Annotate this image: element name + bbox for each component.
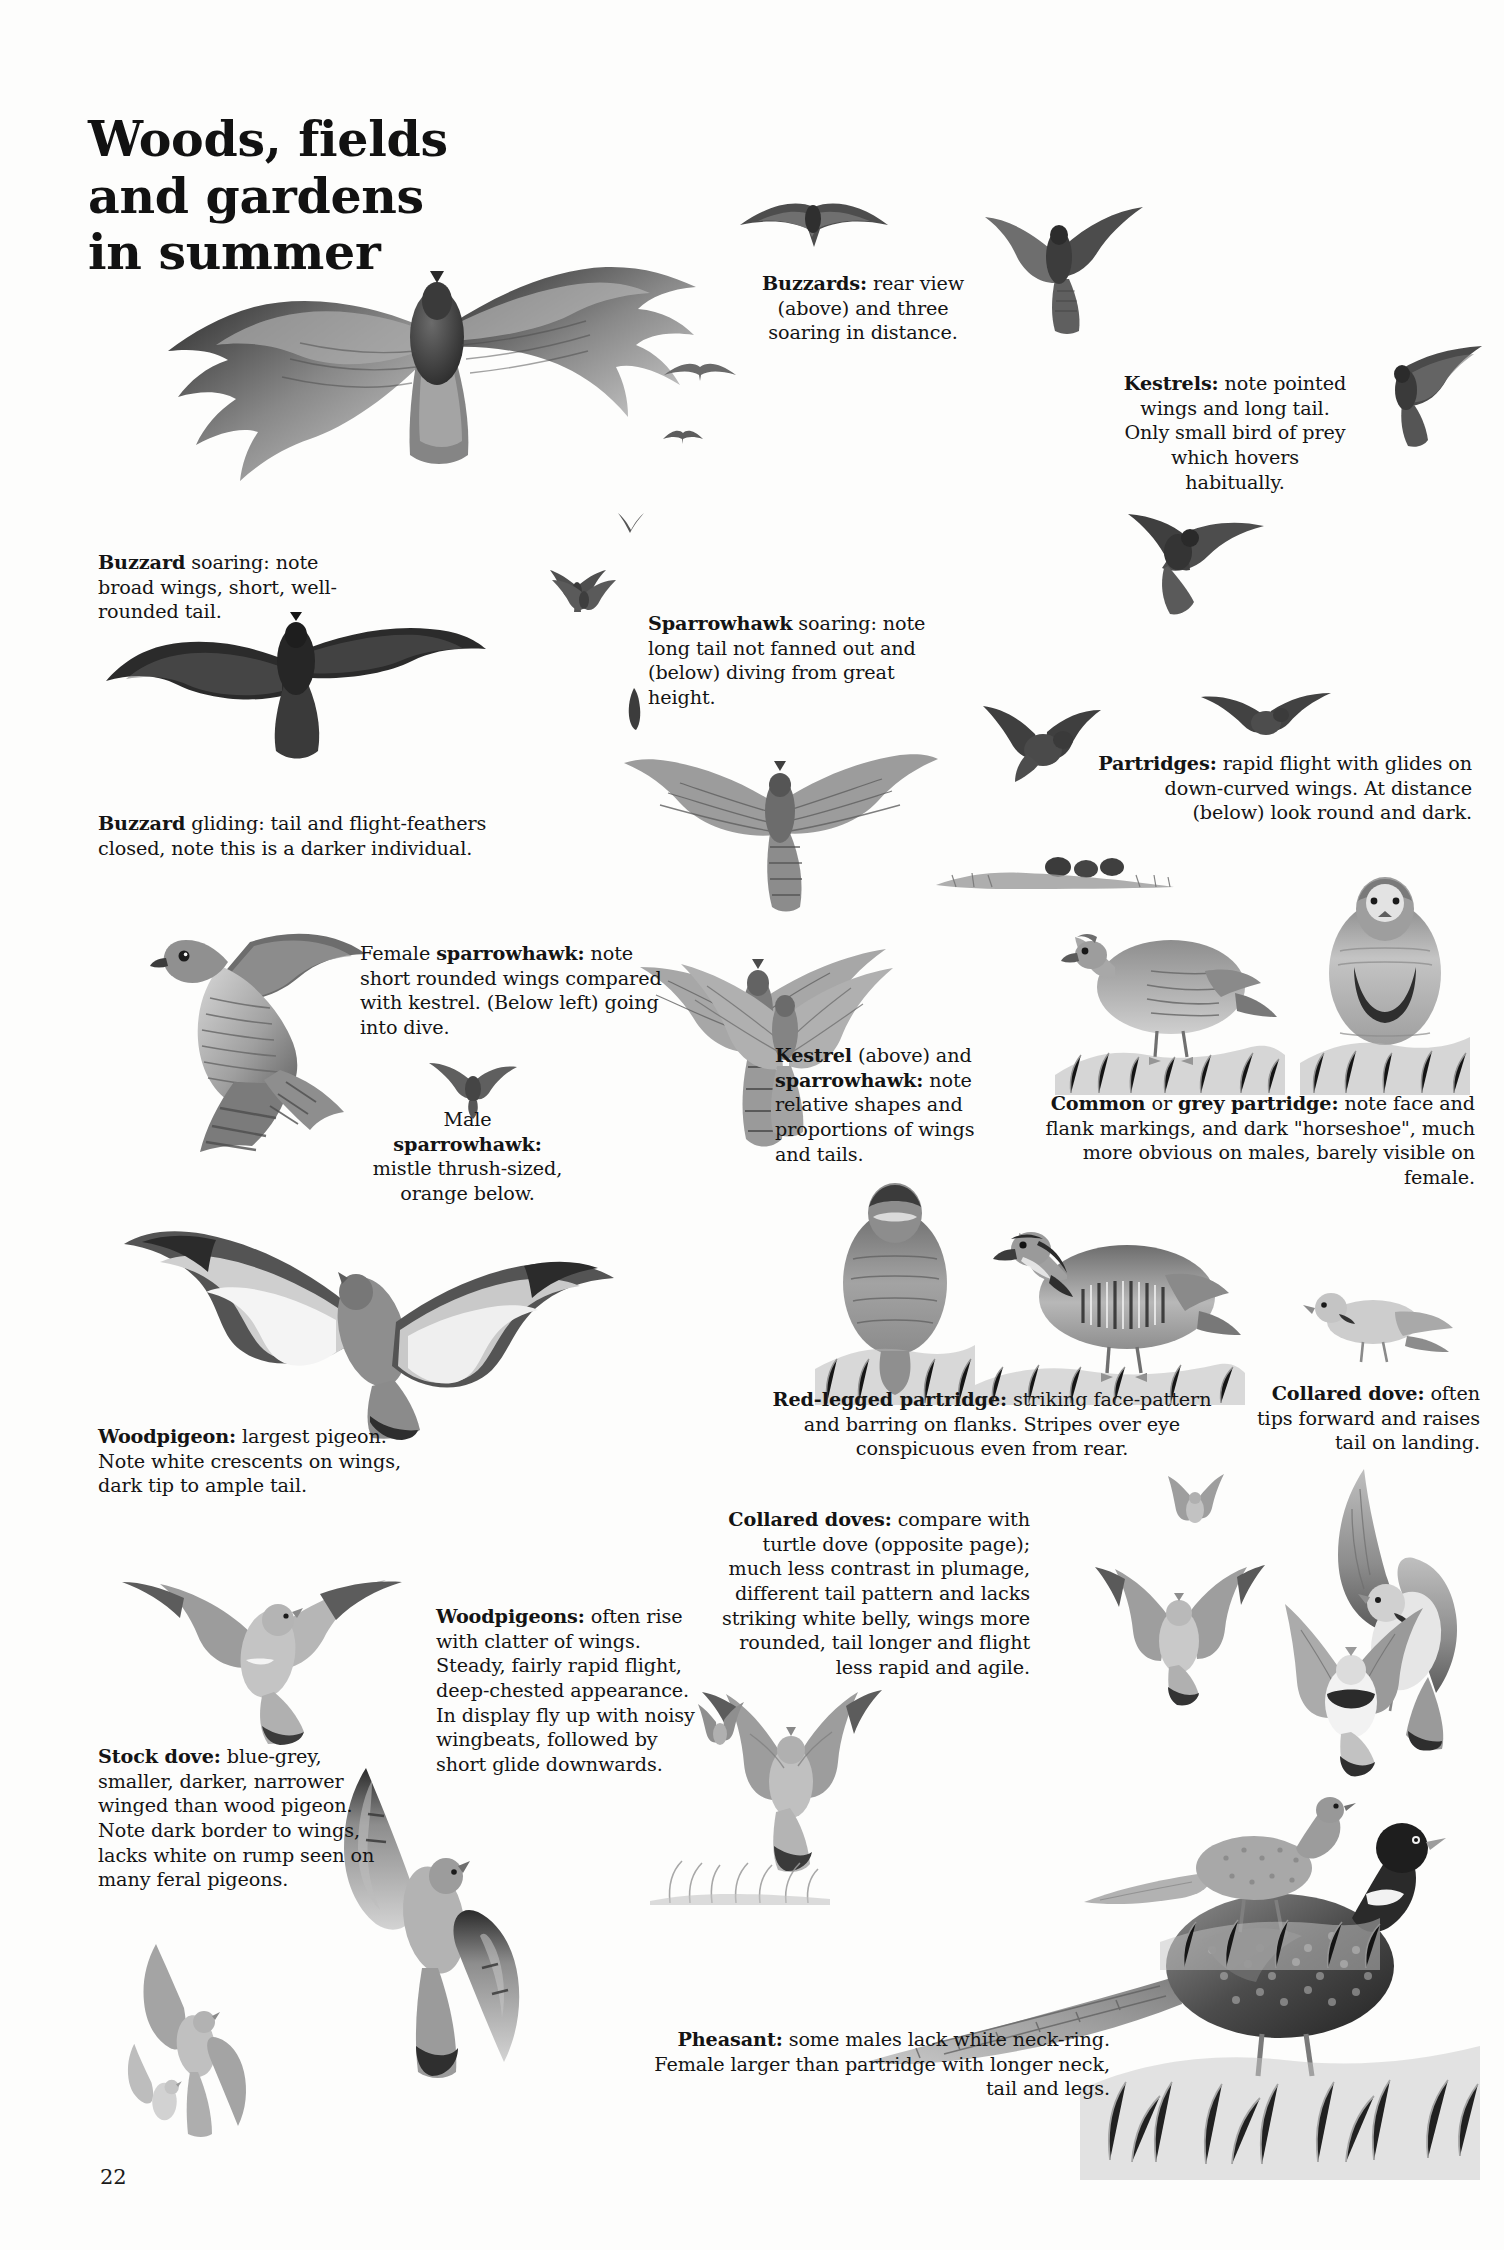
sparrowhawk-soaring-illustration — [620, 735, 940, 915]
woodpigeon-display-flight-illustration — [680, 1680, 900, 1880]
caption-woodpigeons-flight-lead: Woodpigeons: — [436, 1605, 585, 1628]
sparrowhawk-small-flight-illustration — [548, 578, 618, 618]
red-legged-partridge-side-illustration — [975, 1205, 1245, 1405]
woodpigeon-flight-upper-illustration — [120, 1200, 640, 1440]
pheasant-male-illustration — [860, 1790, 1480, 2180]
caption-kestrels-lead: Kestrels: — [1124, 372, 1219, 395]
caption-collared-doves-lead: Collared doves: — [728, 1508, 891, 1531]
caption-grey-partridge: Common or grey partridge: note face and … — [1020, 1092, 1475, 1191]
caption-pheasant: Pheasant: some males lack white neck-rin… — [630, 2028, 1110, 2102]
caption-woodpigeons-flight: Woodpigeons: often rise with clatter of … — [436, 1605, 698, 1778]
caption-partridges-lead: Partridges: — [1098, 752, 1217, 775]
stock-dove-distant-illustration — [110, 1930, 260, 2170]
caption-buzzards-distance-lead: Buzzards: — [762, 272, 867, 295]
buzzard-rear-view-illustration — [728, 185, 898, 265]
caption-woodpigeon: Woodpigeon: largest pigeon. Note white c… — [98, 1425, 418, 1499]
pheasant-female-illustration — [1080, 1790, 1380, 1970]
red-legged-partridge-rear-illustration — [815, 1155, 975, 1405]
grass-tuft-illustration — [650, 1845, 830, 1905]
caption-stock-dove: Stock dove: blue-grey, smaller, darker, … — [98, 1745, 380, 1893]
caption-female-sparrowhawk-lead: sparrowhawk: — [436, 942, 584, 965]
collared-dove-landing-illustration — [1290, 1455, 1490, 1755]
collared-dove-flight-3-illustration — [690, 1700, 750, 1760]
kestrel-distant-illustration — [548, 568, 608, 614]
caption-male-sparrowhawk: Male sparrowhawk: mistle thrush-sized, o… — [370, 1108, 565, 1207]
partridge-distant-group-illustration — [930, 845, 1180, 895]
page-number: 22 — [100, 2165, 127, 2189]
caption-grey-partridge-lead: Common — [1051, 1092, 1146, 1115]
caption-collared-dove: Collared dove: often tips forward and ra… — [1248, 1382, 1480, 1456]
field-guide-page: Woods, fields and gardens in summer Buzz… — [0, 0, 1504, 2250]
caption-male-sparrowhawk-rest: mistle thrush-sized, orange below. — [373, 1157, 563, 1205]
caption-grey-partridge-mid: or — [1145, 1092, 1178, 1115]
partridge-flight-2-illustration — [1195, 685, 1335, 755]
caption-female-sparrowhawk-pre: Female — [360, 942, 436, 965]
buzzard-soaring-distant-2-illustration — [660, 425, 706, 451]
caption-pheasant-lead: Pheasant: — [677, 2028, 782, 2051]
caption-buzzard-soaring: Buzzard soaring: note broad wings, short… — [98, 551, 363, 625]
collared-dove-flight-1-illustration — [1085, 1555, 1265, 1705]
kestrel-hovering-illustration — [975, 195, 1155, 335]
collared-dove-distant-illustration — [1160, 1470, 1230, 1540]
caption-kestrel-and-sparrowhawk: Kestrel (above) and sparrowhawk: note re… — [775, 1044, 990, 1167]
caption-stock-dove-lead: Stock dove: — [98, 1745, 221, 1768]
collared-dove-perched-illustration — [1295, 1270, 1455, 1380]
buzzard-soaring-distant-1-illustration — [660, 355, 740, 389]
caption-collared-doves-rest: compare with turtle dove (opposite page)… — [722, 1508, 1030, 1679]
page-title: Woods, fields and gardens in summer — [88, 111, 518, 281]
caption-collared-doves: Collared doves: compare with turtle dove… — [712, 1508, 1030, 1681]
caption-kestrel-and-sparrowhawk-mid: (above) and — [852, 1044, 972, 1067]
caption-female-sparrowhawk: Female sparrowhawk: note short rounded w… — [360, 942, 672, 1041]
caption-red-legged-partridge: Red-legged partridge: striking face-patt… — [762, 1388, 1222, 1462]
caption-male-sparrowhawk-pre: Male — [443, 1108, 491, 1131]
grey-partridge-side-illustration — [1055, 905, 1285, 1095]
page-title-line-3: in summer — [88, 224, 518, 281]
page-title-line-1: Woods, fields — [88, 111, 518, 168]
page-title-line-2: and gardens — [88, 168, 518, 225]
caption-partridges: Partridges: rapid flight with glides on … — [1092, 752, 1472, 826]
caption-buzzards-distance: Buzzards: rear view (above) and three so… — [748, 272, 978, 346]
buzzard-soaring-distant-3-illustration — [612, 505, 650, 539]
caption-red-legged-partridge-lead: Red-legged partridge: — [773, 1388, 1007, 1411]
caption-woodpigeon-lead: Woodpigeon: — [98, 1425, 236, 1448]
caption-kestrels: Kestrels: note pointed wings and long ta… — [1120, 372, 1350, 495]
kestrel-stooping-illustration — [1110, 510, 1270, 620]
collared-dove-flight-2-illustration — [1255, 1590, 1445, 1780]
caption-kestrel-and-sparrowhawk-lead2: sparrowhawk: — [775, 1069, 923, 1092]
caption-buzzard-gliding-lead: Buzzard — [98, 812, 185, 835]
grey-partridge-front-illustration — [1300, 855, 1470, 1095]
caption-woodpigeons-flight-rest: often rise with clatter of wings. Steady… — [436, 1605, 695, 1776]
sparrowhawk-diving-illustration — [620, 686, 650, 732]
caption-collared-dove-lead: Collared dove: — [1272, 1382, 1425, 1405]
caption-buzzard-gliding: Buzzard gliding: tail and flight-feather… — [98, 812, 518, 861]
caption-buzzard-soaring-lead: Buzzard — [98, 551, 185, 574]
woodpigeon-gliding-illustration — [120, 1550, 440, 1750]
caption-sparrowhawk-soaring: Sparrowhawk soaring: note long tail not … — [648, 612, 938, 711]
caption-grey-partridge-lead2: grey partridge: — [1178, 1092, 1338, 1115]
kestrel-gliding-illustration — [1378, 342, 1498, 452]
caption-male-sparrowhawk-lead: sparrowhawk: — [393, 1133, 541, 1156]
caption-sparrowhawk-soaring-lead: Sparrowhawk — [648, 612, 792, 635]
caption-kestrel-and-sparrowhawk-lead: Kestrel — [775, 1044, 852, 1067]
